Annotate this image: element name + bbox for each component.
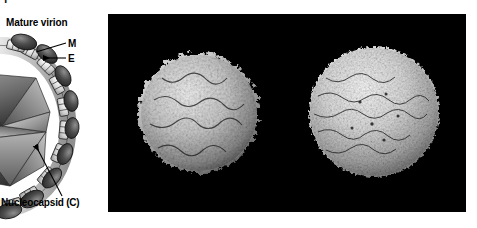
- label-m-protein: M: [68, 38, 76, 49]
- label-nucleocapsid: Nucleocapsid (C): [1, 197, 79, 208]
- virion-schematic-panel: Y Mature virion: [0, 0, 112, 228]
- nucleocapsid-core: [0, 72, 50, 186]
- cryoem-image-panel: [108, 14, 466, 212]
- label-e-protein: E: [68, 53, 75, 64]
- figure-root: Y Mature virion: [0, 0, 477, 228]
- mature-virion-diagram: [0, 0, 112, 228]
- spiky-reconstruction: [124, 38, 274, 188]
- smooth-reconstruction: [298, 36, 450, 188]
